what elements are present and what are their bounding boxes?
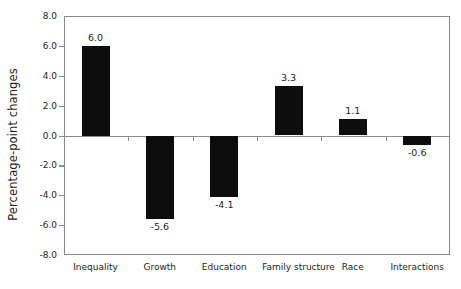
y-axis-title: Percentage-point changes: [0, 0, 26, 289]
x-category-label-interactions: Interactions: [377, 262, 457, 272]
y-tick-label: -8.0: [26, 250, 57, 260]
value-label-family-structure: 3.3: [259, 72, 319, 83]
bar-growth: [146, 136, 174, 220]
value-label-interactions: -0.6: [387, 147, 447, 158]
x-category-label-growth: Growth: [130, 262, 190, 272]
bar-chart-figure: Percentage-point changes 8.0 6.0 4.0 2.0…: [0, 0, 461, 289]
x-tick-mark: [128, 136, 129, 141]
value-label-growth: -5.6: [130, 221, 190, 232]
bar-race: [339, 119, 367, 135]
x-category-label-education: Education: [194, 262, 254, 272]
y-tick-label: 8.0: [26, 11, 57, 21]
x-tick-mark: [386, 136, 387, 141]
value-label-race: 1.1: [323, 105, 383, 116]
bar-family-structure: [275, 86, 303, 135]
x-tick-mark: [257, 136, 258, 141]
y-tick-label: -4.0: [26, 190, 57, 200]
x-tick-mark: [193, 136, 194, 141]
y-tick-label: -6.0: [26, 220, 57, 230]
y-tick-label: 0.0: [26, 131, 57, 141]
y-tick-label: 6.0: [26, 41, 57, 51]
plot-area: 6.0 -5.6 -4.1 3.3 1.1 -0.6: [64, 16, 450, 255]
bar-inequality: [82, 46, 110, 136]
bar-interactions: [403, 136, 431, 145]
value-label-inequality: 6.0: [66, 32, 126, 43]
x-category-label-inequality: Inequality: [66, 262, 126, 272]
y-tick-label: -2.0: [26, 160, 57, 170]
value-label-education: -4.1: [194, 199, 254, 210]
y-tick-label: 2.0: [26, 101, 57, 111]
bar-education: [210, 136, 238, 197]
x-category-label-race: Race: [323, 262, 383, 272]
x-tick-mark: [321, 136, 322, 141]
y-tick-label: 4.0: [26, 71, 57, 81]
